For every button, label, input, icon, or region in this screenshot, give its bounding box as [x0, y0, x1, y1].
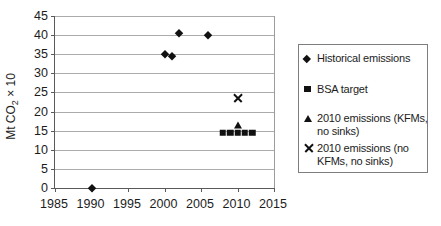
y-tick-label: 10	[16, 143, 48, 156]
square-marker-icon	[234, 129, 241, 136]
legend-label-line: 2010 emissions (KFMs,	[317, 112, 428, 125]
gridline-y-40	[55, 35, 274, 36]
diamond-marker-icon	[161, 50, 169, 58]
y-tick-label: 40	[16, 29, 48, 42]
x-tick-label: 1995	[113, 198, 141, 211]
y-tick-mark	[51, 73, 55, 74]
y-tick-label: 0	[16, 182, 48, 195]
x-tick-mark	[165, 188, 166, 192]
data-point	[234, 129, 241, 136]
plot-area	[54, 16, 275, 189]
data-point	[206, 32, 212, 38]
legend-square-icon	[304, 83, 317, 96]
legend: Historical emissionsBSA target2010 emiss…	[298, 44, 428, 173]
gridline-y-5	[55, 169, 274, 170]
square-marker-icon	[249, 129, 256, 136]
legend-x-icon	[304, 142, 317, 155]
square-marker-icon	[227, 129, 234, 136]
y-tick-label: 5	[16, 162, 48, 175]
diamond-marker-icon	[204, 31, 212, 39]
x-marker-icon	[304, 143, 314, 153]
legend-label-line: KFMs, no sinks)	[317, 155, 409, 168]
legend-triangle-icon	[304, 112, 317, 125]
square-marker-icon	[220, 129, 227, 136]
legend-label: 2010 emissions (KFMs,no sinks)	[317, 112, 428, 137]
legend-item: 2010 emissions (KFMs,no sinks)	[304, 112, 424, 137]
y-tick-mark	[51, 112, 55, 113]
y-tick-label: 45	[16, 10, 48, 23]
diamond-marker-icon	[168, 52, 176, 60]
y-tick-mark	[51, 150, 55, 151]
y-tick-mark	[51, 131, 55, 132]
data-point	[162, 51, 168, 57]
legend-label: 2010 emissions (noKFMs, no sinks)	[317, 142, 409, 167]
y-tick-label: 15	[16, 124, 48, 137]
diamond-marker-icon	[175, 29, 183, 37]
diamond-marker-icon	[303, 54, 311, 62]
x-tick-label: 2000	[150, 198, 178, 211]
y-tick-mark	[51, 35, 55, 36]
legend-item: BSA target	[304, 83, 424, 96]
legend-item: Historical emissions	[304, 52, 424, 65]
data-point	[242, 129, 249, 136]
gridline-y-30	[55, 73, 274, 74]
gridline-y-10	[55, 150, 274, 151]
x-tick-mark	[201, 188, 202, 192]
x-tick-mark	[128, 188, 129, 192]
legend-label-line: no sinks)	[317, 125, 428, 138]
x-marker-icon	[233, 93, 243, 103]
triangle-marker-icon	[234, 121, 242, 128]
square-marker-icon	[304, 86, 311, 93]
y-tick-mark	[51, 169, 55, 170]
legend-label: BSA target	[317, 83, 368, 96]
y-tick-label: 35	[16, 48, 48, 61]
legend-label-line: 2010 emissions (no	[317, 142, 409, 155]
square-marker-icon	[242, 129, 249, 136]
emissions-scatter-chart: Mt CO2 × 10 Historical emissionsBSA targ…	[0, 0, 441, 226]
data-point	[89, 185, 95, 191]
x-tick-label: 1990	[77, 198, 105, 211]
diamond-marker-icon	[88, 184, 96, 192]
legend-diamond-icon	[304, 52, 317, 65]
gridline-y-45	[55, 16, 274, 17]
y-tick-label: 20	[16, 105, 48, 118]
data-point	[233, 93, 243, 103]
x-tick-label: 1985	[40, 198, 68, 211]
legend-label-line: Historical emissions	[317, 52, 410, 65]
triangle-marker-icon	[304, 115, 312, 122]
data-point	[249, 129, 256, 136]
y-tick-mark	[51, 16, 55, 17]
gridline-y-20	[55, 112, 274, 113]
x-tick-label: 2010	[223, 198, 251, 211]
legend-item: 2010 emissions (noKFMs, no sinks)	[304, 142, 424, 167]
y-tick-mark	[51, 92, 55, 93]
data-point	[227, 129, 234, 136]
x-tick-mark	[238, 188, 239, 192]
data-point	[234, 121, 242, 128]
x-tick-mark	[55, 188, 56, 192]
x-tick-label: 2015	[259, 198, 287, 211]
y-tick-mark	[51, 54, 55, 55]
x-tick-mark	[274, 188, 275, 192]
y-tick-label: 25	[16, 86, 48, 99]
y-tick-label: 30	[16, 67, 48, 80]
data-point	[220, 129, 227, 136]
data-point	[169, 53, 175, 59]
legend-label-line: BSA target	[317, 83, 368, 96]
x-tick-label: 2005	[186, 198, 214, 211]
legend-label: Historical emissions	[317, 52, 410, 65]
data-point	[176, 30, 182, 36]
